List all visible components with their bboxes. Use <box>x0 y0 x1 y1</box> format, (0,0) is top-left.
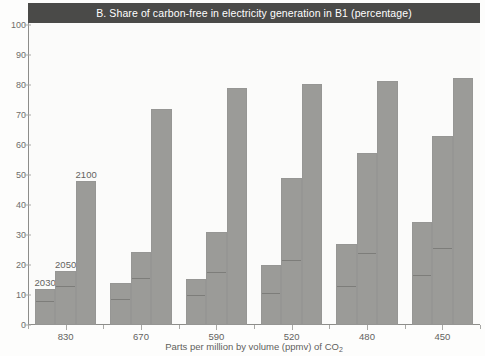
x-axis-title-text: Parts per million by volume (ppmv) of CO <box>165 341 339 352</box>
x-axis-group-boundary-mark <box>254 325 255 329</box>
x-axis-tick-mark <box>367 325 368 330</box>
bar-2030-480 <box>336 244 357 325</box>
x-axis: 830670590520480450 <box>28 325 480 341</box>
bar-group <box>186 23 248 325</box>
bar-2030-450 <box>412 222 433 326</box>
bar-2030-520 <box>261 265 282 325</box>
bar-2050-480 <box>357 153 378 326</box>
bars-layer: 203020502100 <box>28 23 480 325</box>
y-axis-tick-label: 10 <box>0 290 26 300</box>
x-axis-title-subscript: 2 <box>339 346 343 353</box>
y-axis-tick-label: 0 <box>0 320 26 330</box>
y-axis-tick-label: 20 <box>0 260 26 270</box>
x-axis-title: Parts per million by volume (ppmv) of CO… <box>28 341 480 352</box>
chart-title-bar: B. Share of carbon-free in electricity g… <box>28 3 480 23</box>
chart-root: B. Share of carbon-free in electricity g… <box>0 0 485 356</box>
bar-segment-divider <box>207 272 226 273</box>
y-axis-tick-label: 60 <box>0 140 26 150</box>
bar-segment-divider <box>187 295 206 296</box>
bar-2100-670 <box>151 109 172 325</box>
x-axis-group-boundary-mark <box>405 325 406 329</box>
bar-2030-590 <box>186 279 207 326</box>
bar-segment-divider <box>337 286 356 287</box>
bar-2100-520 <box>302 84 323 326</box>
x-axis-tick-mark <box>141 325 142 330</box>
y-axis-tick-label: 70 <box>0 110 26 120</box>
y-axis-tick-label: 30 <box>0 230 26 240</box>
x-axis-group-boundary-mark <box>179 325 180 329</box>
bar-segment-divider <box>433 248 452 249</box>
series-label-2050: 2050 <box>55 259 76 270</box>
y-axis-tick-label: 100 <box>0 20 26 30</box>
x-axis-group-boundary-mark <box>103 325 104 329</box>
bar-group <box>412 23 474 325</box>
y-axis-tick-label: 90 <box>0 50 26 60</box>
bar-segment-divider <box>132 278 151 279</box>
bar-segment-divider <box>56 286 75 287</box>
bar-2100-450 <box>453 78 474 326</box>
bar-2100-480 <box>377 81 398 326</box>
x-axis-tick-mark <box>66 325 67 330</box>
bar-2050-830: 2050 <box>55 271 76 325</box>
bar-2100-830: 2100 <box>76 181 97 325</box>
x-axis-tick-mark <box>292 325 293 330</box>
bar-segment-divider <box>413 275 432 276</box>
bar-segment-divider <box>111 299 130 300</box>
y-axis-tick-label: 80 <box>0 80 26 90</box>
bar-2100-590 <box>227 88 248 325</box>
y-axis-tick-label: 40 <box>0 200 26 210</box>
bar-2030-830: 2030 <box>35 289 56 325</box>
chart-title: B. Share of carbon-free in electricity g… <box>96 7 412 19</box>
bar-segment-divider <box>282 260 301 261</box>
bar-segment-divider <box>36 301 55 302</box>
x-axis-group-boundary-mark <box>480 325 481 329</box>
series-label-2030: 2030 <box>35 277 56 288</box>
bar-2030-670 <box>110 283 131 325</box>
bar-group <box>336 23 398 325</box>
bar-2050-520 <box>281 178 302 325</box>
bar-segment-divider <box>358 253 377 254</box>
bar-segment-divider <box>262 293 281 294</box>
series-label-2100: 2100 <box>76 169 97 180</box>
y-axis-tick-label: 50 <box>0 170 26 180</box>
bar-2050-590 <box>206 232 227 325</box>
bar-2050-450 <box>432 136 453 325</box>
bar-2050-670 <box>131 252 152 326</box>
bar-group: 203020502100 <box>35 23 97 325</box>
x-axis-group-boundary-mark <box>28 325 29 329</box>
bar-group <box>261 23 323 325</box>
bar-group <box>110 23 172 325</box>
x-axis-tick-mark <box>216 325 217 330</box>
x-axis-group-boundary-mark <box>329 325 330 329</box>
x-axis-tick-mark <box>442 325 443 330</box>
